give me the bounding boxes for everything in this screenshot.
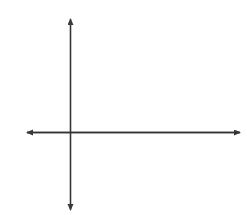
linear-system-graph (0, 0, 247, 215)
